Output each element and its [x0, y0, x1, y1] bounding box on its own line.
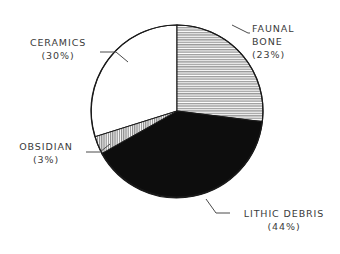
- slice-label-faunal-bone-name2: BONE: [252, 35, 294, 48]
- slice-label-faunal-bone-percent: (23%): [252, 48, 294, 61]
- slice-label-lithic-debris-name: LITHIC DEBRIS: [232, 207, 336, 220]
- slice-label-ceramics-name: CERAMICS: [12, 36, 104, 49]
- leader-line-lithic-debris: [206, 199, 230, 213]
- pie-chart-figure: FAUNAL BONE (23%) CERAMICS (30%) OBSIDIA…: [0, 0, 340, 254]
- slice-label-faunal-bone: FAUNAL BONE (23%): [252, 22, 294, 61]
- slice-label-obsidian-percent: (3%): [4, 153, 88, 166]
- slice-label-lithic-debris-percent: (44%): [232, 220, 336, 233]
- leader-line-faunal-bone: [232, 25, 250, 33]
- slice-label-ceramics: CERAMICS (30%): [12, 36, 104, 62]
- slice-label-obsidian-name: OBSIDIAN: [4, 140, 88, 153]
- pie-slice-faunal-bone[interactable]: [177, 25, 263, 122]
- slice-label-faunal-bone-name: FAUNAL: [252, 22, 294, 35]
- slice-label-obsidian: OBSIDIAN (3%): [4, 140, 88, 166]
- slice-label-lithic-debris: LITHIC DEBRIS (44%): [232, 207, 336, 233]
- slice-label-ceramics-percent: (30%): [12, 49, 104, 62]
